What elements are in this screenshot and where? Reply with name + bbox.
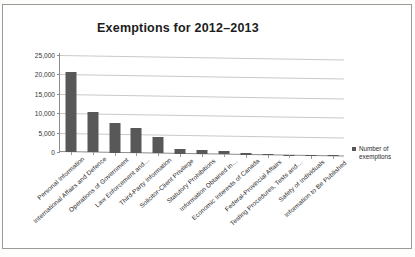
y-axis-tick-label: 20,000 [35, 71, 55, 78]
plot-area: 05,00010,00015,00020,00025,000 [60, 55, 344, 152]
bar-slot [82, 55, 104, 152]
bar [87, 112, 98, 152]
bar [65, 72, 76, 152]
bar-slot [147, 55, 169, 152]
chart-title: Exemptions for 2012–2013 [3, 21, 353, 35]
y-axis-tick-label: 0 [51, 149, 55, 156]
bar-slot [322, 55, 344, 152]
y-axis-tick-label: 15,000 [35, 90, 55, 97]
bar-slot [213, 55, 235, 152]
bar-series [60, 55, 344, 152]
legend-label: Number of exemptions [359, 145, 414, 161]
chart-legend: Number of exemptions [352, 145, 414, 161]
x-axis-category-labels: Personal InformationInternational Affair… [60, 155, 360, 235]
bar-slot [126, 55, 148, 152]
bar-slot [257, 55, 279, 152]
page-border: Exemptions for 2012–2013 05,00010,00015,… [2, 4, 412, 249]
y-axis-tick-label: 25,000 [35, 52, 55, 59]
y-axis-tick-mark [57, 152, 60, 153]
bar-chart: Exemptions for 2012–2013 05,00010,00015,… [3, 5, 412, 250]
bar [131, 128, 142, 153]
bar-slot [104, 55, 126, 152]
y-axis-tick-label: 10,000 [35, 110, 55, 117]
y-axis-tick-label: 5,000 [38, 129, 55, 136]
bar-slot [191, 55, 213, 152]
bar [109, 123, 120, 152]
bar [153, 137, 164, 154]
bar-slot [278, 55, 300, 152]
legend-square-marker-icon [352, 147, 356, 151]
bar-slot [60, 55, 82, 152]
bar-slot [235, 55, 257, 152]
bar-slot [169, 55, 191, 152]
scanned-page: Exemptions for 2012–2013 05,00010,00015,… [0, 0, 415, 257]
bar-slot [300, 55, 322, 152]
